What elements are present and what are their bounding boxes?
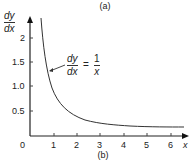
- annotation-lhs-den: dx: [67, 67, 78, 77]
- x-tick-label: 3: [97, 140, 102, 150]
- y-tick-label: 2: [20, 33, 25, 43]
- annotation-rhs-den: x: [94, 67, 99, 77]
- annotation-rhs: 1 x: [94, 54, 100, 77]
- annotation-lhs-num: dy: [67, 54, 78, 64]
- x-tick-label: 5: [144, 140, 149, 150]
- leader-arrow-icon: [49, 68, 53, 72]
- y-axis-label: dy dx: [4, 11, 15, 34]
- x-axis-arrow-icon: [182, 133, 189, 139]
- y-tick-label: 1.5: [12, 57, 25, 67]
- y-axis-arrow-icon: [27, 16, 33, 23]
- annotation-rhs-num: 1: [94, 54, 100, 64]
- y-label-den: dx: [4, 24, 15, 34]
- y-tick-label: 1.0: [12, 81, 25, 91]
- x-tick-label: 1: [51, 140, 56, 150]
- x-axis-label: x: [183, 140, 188, 150]
- x-tick-label: 2: [74, 140, 79, 150]
- annotation-equals: =: [83, 59, 89, 70]
- annotation-lhs: dy dx: [67, 54, 78, 77]
- curve-series: [41, 18, 184, 127]
- x-tick-label: 4: [121, 140, 126, 150]
- y-label-num: dy: [4, 11, 15, 21]
- x-tick-label: 0: [20, 140, 25, 150]
- y-tick-label: 0.5: [12, 106, 25, 116]
- plot-area: [0, 0, 189, 165]
- x-tick-label: 6: [168, 140, 173, 150]
